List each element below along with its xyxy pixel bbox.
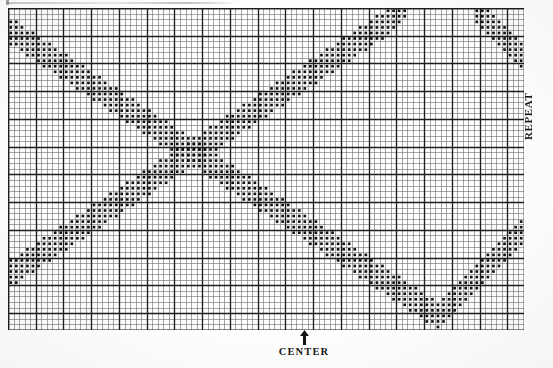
center-label: CENTER <box>258 346 350 357</box>
scan-artifact-line <box>6 2 238 4</box>
repeat-label: REPEAT <box>522 50 536 140</box>
stitch-grid[interactable] <box>8 8 524 330</box>
scan-artifact-mark <box>6 0 9 5</box>
stitch-grid-canvas[interactable] <box>8 8 524 330</box>
chart-page: REPEAT CENTER <box>0 0 553 368</box>
center-marker: CENTER <box>258 330 350 364</box>
up-arrow-icon <box>299 330 310 345</box>
